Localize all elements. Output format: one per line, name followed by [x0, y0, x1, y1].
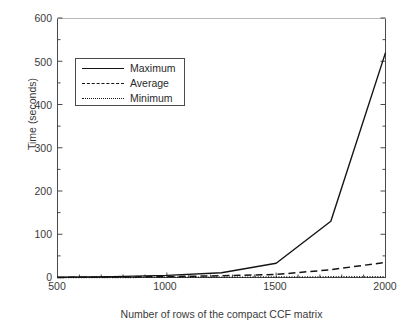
series-line-average — [58, 262, 386, 277]
legend-entry-average: Average — [76, 77, 186, 91]
legend-label-maximum: Maximum — [130, 62, 176, 75]
legend-label-average: Average — [130, 77, 169, 90]
plot-area — [0, 0, 412, 334]
legend-swatch-dashed-icon — [82, 83, 124, 86]
legend: Maximum Average Minimum — [75, 58, 185, 106]
legend-label-minimum: Minimum — [130, 92, 173, 105]
tick-marks — [58, 18, 386, 278]
legend-entry-minimum: Minimum — [76, 92, 186, 106]
legend-swatch-solid-icon — [82, 68, 124, 71]
legend-entry-maximum: Maximum — [76, 62, 186, 76]
chart-figure: Time (seconds) Number of rows of the com… — [0, 0, 412, 334]
legend-swatch-dotted-icon — [82, 98, 124, 101]
